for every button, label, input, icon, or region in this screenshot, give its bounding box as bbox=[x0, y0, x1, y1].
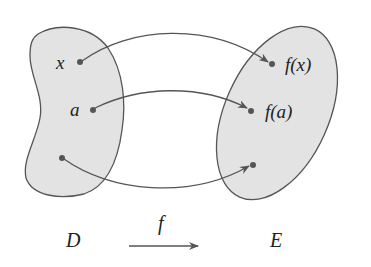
function-label-f: f bbox=[158, 212, 166, 235]
set-label-E: E bbox=[269, 229, 282, 251]
label-fx: f(x) bbox=[285, 54, 311, 76]
set-label-D: D bbox=[65, 229, 81, 251]
label-x: x bbox=[55, 52, 65, 73]
domain-point-x bbox=[77, 59, 83, 65]
domain-point-a bbox=[90, 107, 96, 113]
label-a: a bbox=[70, 99, 80, 120]
image-point-fa bbox=[248, 108, 254, 114]
function-mapping-diagram: x a f(x) f(a) D E f bbox=[0, 0, 371, 267]
image-point-3 bbox=[250, 162, 256, 168]
label-fa: f(a) bbox=[265, 101, 292, 123]
image-point-fx bbox=[269, 61, 275, 67]
domain-point-3 bbox=[59, 155, 65, 161]
